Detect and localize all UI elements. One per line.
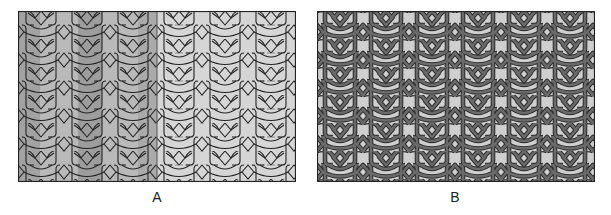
panel-a-line-pattern <box>18 11 296 182</box>
pattern-a-svg <box>18 11 296 182</box>
panel-b-strapwork <box>317 11 595 182</box>
panel-b-label: B <box>440 189 470 205</box>
panel-b-strapwork-pattern <box>317 11 595 182</box>
panel-a-label: A <box>142 189 172 205</box>
pattern-b-svg <box>317 11 595 182</box>
